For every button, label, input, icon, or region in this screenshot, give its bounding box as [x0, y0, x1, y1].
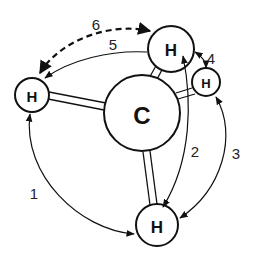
bond-c-h-left — [48, 92, 106, 110]
atom-h-bottom: H — [136, 204, 178, 246]
interaction-1-label: 1 — [30, 185, 38, 202]
atom-h-top: H — [148, 26, 194, 72]
methane-interaction-diagram: C H H H H 6 5 4 2 3 1 — [0, 0, 253, 256]
atom-c: C — [104, 75, 180, 151]
svg-text:H: H — [27, 88, 38, 105]
svg-text:H: H — [165, 41, 177, 60]
interaction-2-label: 2 — [191, 143, 199, 160]
interaction-5-label: 5 — [109, 36, 117, 53]
atom-h-right: H — [192, 68, 220, 96]
interaction-4-arrow — [195, 52, 206, 68]
interaction-4-label: 4 — [207, 50, 215, 67]
interaction-3-label: 3 — [232, 145, 240, 162]
svg-text:H: H — [201, 76, 210, 91]
bond-c-h-right — [176, 88, 195, 99]
interaction-6-label: 6 — [92, 16, 100, 33]
bond-c-h-bottom — [143, 151, 157, 205]
interaction-3-arrow — [180, 97, 226, 218]
interaction-6-arrow — [40, 29, 150, 73]
interaction-5-arrow — [45, 52, 147, 78]
diagram-canvas: C H H H H 6 5 4 2 3 1 — [0, 0, 253, 256]
svg-text:H: H — [151, 218, 163, 237]
svg-text:C: C — [133, 102, 150, 129]
atom-h-left: H — [15, 78, 49, 112]
